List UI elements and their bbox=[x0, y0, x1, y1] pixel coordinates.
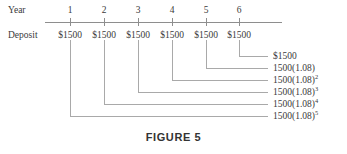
future-value-label-1: $1500 bbox=[273, 52, 297, 62]
connector-vertical-1 bbox=[239, 40, 240, 56]
connector-vertical-4 bbox=[138, 40, 139, 92]
year-label-1: 1 bbox=[68, 6, 73, 16]
connector-horizontal-4 bbox=[138, 92, 268, 93]
future-value-label-4: 1500(1.08)3 bbox=[273, 88, 318, 98]
future-value-label-2: 1500(1.08) bbox=[273, 64, 315, 74]
axis-tick-6 bbox=[239, 18, 240, 26]
year-row-label: Year bbox=[8, 6, 26, 16]
future-value-base-2: 1500(1.08) bbox=[273, 63, 315, 73]
axis-tick-2 bbox=[104, 18, 105, 26]
deposit-row-label: Deposit bbox=[8, 31, 38, 41]
future-value-label-5: 1500(1.08)4 bbox=[273, 100, 318, 110]
year-label-4: 4 bbox=[170, 6, 175, 16]
future-value-base-3: 1500(1.08) bbox=[273, 75, 315, 85]
axis-tick-3 bbox=[138, 18, 139, 26]
axis-tick-1 bbox=[70, 18, 71, 26]
connector-horizontal-6 bbox=[70, 116, 268, 117]
timeline-axis bbox=[45, 22, 282, 23]
year-label-6: 6 bbox=[237, 6, 242, 16]
figure-caption: FIGURE 5 bbox=[0, 131, 347, 143]
axis-tick-5 bbox=[206, 18, 207, 26]
future-value-label-3: 1500(1.08)2 bbox=[273, 76, 318, 86]
future-value-exponent-5: 4 bbox=[315, 97, 318, 104]
year-label-2: 2 bbox=[102, 6, 107, 16]
future-value-exponent-3: 2 bbox=[315, 73, 318, 80]
connector-vertical-5 bbox=[104, 40, 105, 104]
connector-vertical-6 bbox=[70, 40, 71, 116]
future-value-exponent-4: 3 bbox=[315, 85, 318, 92]
future-value-base-4: 1500(1.08) bbox=[273, 87, 315, 97]
future-value-exponent-6: 5 bbox=[315, 109, 318, 116]
year-label-3: 3 bbox=[136, 6, 141, 16]
year-label-5: 5 bbox=[204, 6, 209, 16]
connector-horizontal-1 bbox=[239, 56, 268, 57]
future-value-base-6: 1500(1.08) bbox=[273, 111, 315, 121]
connector-vertical-3 bbox=[172, 40, 173, 80]
connector-horizontal-5 bbox=[104, 104, 268, 105]
connector-vertical-2 bbox=[206, 40, 207, 68]
compound-interest-timeline-figure: Year Deposit 123456 $1500$1500$1500$1500… bbox=[0, 0, 347, 154]
future-value-label-6: 1500(1.08)5 bbox=[273, 112, 318, 122]
axis-tick-4 bbox=[172, 18, 173, 26]
future-value-base-5: 1500(1.08) bbox=[273, 99, 315, 109]
connector-horizontal-2 bbox=[206, 68, 268, 69]
future-value-base-1: $1500 bbox=[273, 51, 297, 61]
connector-horizontal-3 bbox=[172, 80, 268, 81]
